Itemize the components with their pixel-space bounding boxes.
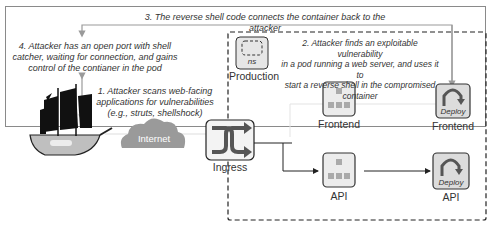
step2-line4: container: [280, 91, 440, 102]
step1-line2: applications for vulnerabilities: [90, 97, 220, 108]
step4-line1: 4. Attacker has an open port with shell: [10, 41, 180, 52]
step1-annotation: 1. Attacker scans web-facing application…: [90, 86, 220, 119]
ingress-label: Ingress: [206, 161, 254, 173]
step1-line3: (e.g., struts, shellshock): [90, 108, 220, 119]
step4-line3: control of the contianer in the pod: [10, 63, 180, 74]
internet-label: Internet: [124, 133, 184, 144]
namespace-badge: ns: [236, 56, 268, 67]
ingress-icon: [206, 120, 254, 160]
step4-line2: catcher, waiting for connection, and gai…: [10, 52, 180, 63]
frontend-service-label: Frontend: [310, 118, 368, 130]
ingress-to-api-arrow: [283, 143, 318, 171]
frontend-deploy-badge: Deploy: [436, 106, 470, 117]
api-service-icon: [323, 153, 355, 187]
api-deploy-badge: Deploy: [433, 177, 469, 188]
step1-line1: 1. Attacker scans web-facing: [90, 86, 220, 97]
frontend-deploy-label: Frontend: [424, 120, 482, 132]
step2-line3: start a reverse shell in the compromised: [280, 80, 440, 91]
step4-annotation: 4. Attacker has an open port with shell …: [10, 41, 180, 74]
step3-annotation: 3. The reverse shell code connects the c…: [140, 12, 390, 34]
step2-line2: in a pod running a web server, and uses …: [280, 59, 440, 80]
namespace-label: Production: [226, 70, 282, 82]
api-deploy-label: API: [422, 191, 480, 203]
step2-line1: 2. Attacker finds an exploitable vulnera…: [280, 38, 440, 59]
step2-annotation: 2. Attacker finds an exploitable vulnera…: [280, 38, 440, 101]
diagram-canvas: [0, 0, 494, 231]
api-service-label: API: [310, 190, 368, 202]
